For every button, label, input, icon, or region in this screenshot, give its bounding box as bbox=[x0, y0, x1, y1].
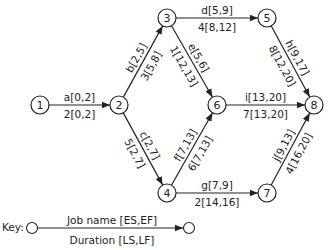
edge-bottom-label: 7[13,20] bbox=[243, 108, 288, 120]
edge-bottom-label: 2[14,16] bbox=[195, 196, 240, 208]
node-7: 7 bbox=[258, 184, 276, 202]
node-4: 4 bbox=[158, 184, 176, 202]
key-start-node bbox=[27, 223, 38, 234]
node-5: 5 bbox=[258, 9, 276, 27]
key-bottom-label: Duration [LS,LF] bbox=[70, 234, 155, 246]
edge-top-label: a[0,2] bbox=[64, 91, 95, 103]
node-6: 6 bbox=[208, 96, 226, 114]
key-end-node bbox=[184, 223, 195, 234]
edges: a[0,2]2[0,2]b[2,5]3[5,8]c[2,7]5[2,7]d[5,… bbox=[49, 4, 314, 208]
edge-e: e[5,6]1[12,13] bbox=[168, 26, 213, 97]
node-1: 1 bbox=[31, 96, 49, 114]
node-8: 8 bbox=[305, 96, 323, 114]
edge-g: g[7,9]2[14,16] bbox=[176, 179, 258, 208]
edge-c: c[2,7]5[2,7] bbox=[122, 113, 162, 185]
node-label: 5 bbox=[264, 12, 271, 25]
edge-i: i[13,20]7[13,20] bbox=[226, 91, 305, 120]
node-label: 8 bbox=[311, 99, 318, 112]
edge-a: a[0,2]2[0,2] bbox=[49, 91, 110, 120]
node-label: 1 bbox=[37, 99, 44, 112]
edge-bottom-label: 2[0,2] bbox=[64, 108, 96, 120]
node-label: 4 bbox=[164, 187, 171, 200]
node-3: 3 bbox=[158, 9, 176, 27]
edge-top-label: i[13,20] bbox=[245, 91, 286, 103]
edge-top-label: d[5,9] bbox=[201, 4, 233, 16]
edge-f: f[7,13]6[7,13] bbox=[171, 113, 214, 185]
edge-top-label: g[7,9] bbox=[201, 179, 233, 191]
legend-key: Key: Job name [ES,EF] Duration [LS,LF] bbox=[2, 214, 195, 246]
node-label: 2 bbox=[116, 99, 123, 112]
edge-b: b[2,5]3[5,8] bbox=[123, 26, 164, 97]
node-label: 3 bbox=[164, 12, 171, 25]
key-top-label: Job name [ES,EF] bbox=[66, 214, 157, 226]
network-diagram: a[0,2]2[0,2]b[2,5]3[5,8]c[2,7]5[2,7]d[5,… bbox=[0, 0, 330, 250]
edge-d: d[5,9]4[8,12] bbox=[176, 4, 258, 33]
key-label: Key: bbox=[2, 221, 24, 233]
node-2: 2 bbox=[110, 96, 128, 114]
node-label: 6 bbox=[214, 99, 221, 112]
edge-j: j[9,13]4[16,20] bbox=[270, 113, 315, 185]
edge-bottom-label: 4[8,12] bbox=[198, 21, 236, 33]
node-label: 7 bbox=[264, 187, 271, 200]
edge-h: h[9,17]8[12,20] bbox=[267, 26, 312, 97]
